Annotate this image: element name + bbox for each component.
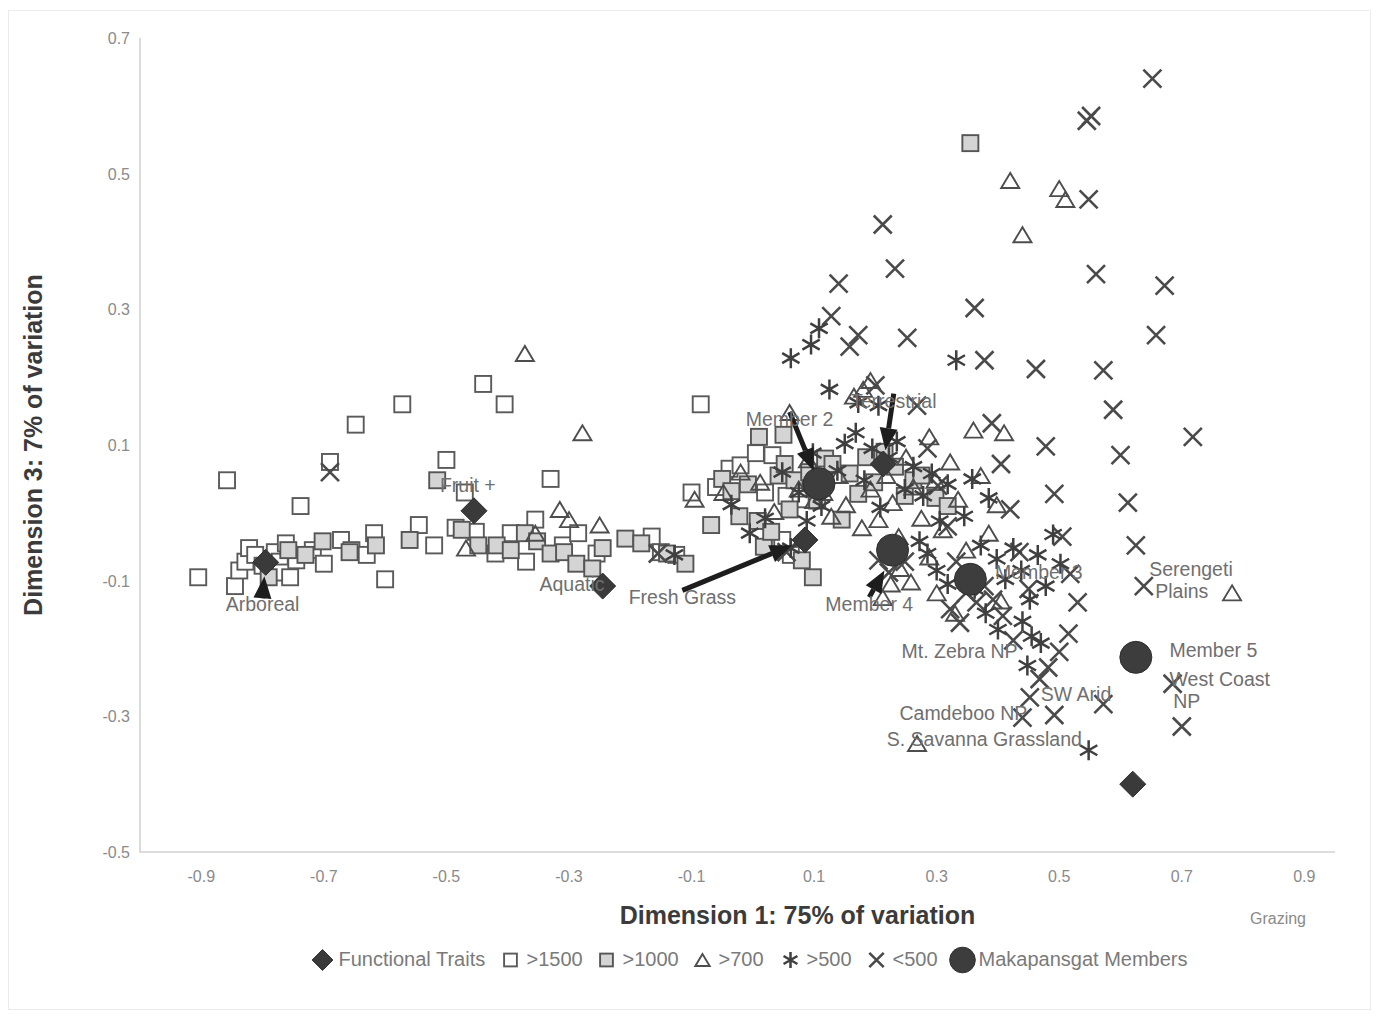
data-point [1094,361,1112,379]
data-point [956,506,973,526]
data-point [1014,611,1031,631]
x-tick-label: 0.9 [1293,868,1315,885]
data-point [1032,633,1049,653]
data-point [782,348,799,368]
data-point [1080,190,1098,208]
data-point [316,556,332,572]
y-tick-label: 0.5 [108,166,130,183]
data-point [1037,437,1055,455]
data-point [834,512,850,528]
x-tick-label: -0.1 [678,868,706,885]
data-point [966,299,984,317]
data-point [830,275,848,293]
data-point [805,569,821,585]
legend-label: >700 [719,948,764,970]
x-tick-label: 0.3 [926,868,948,885]
y-tick-label: -0.5 [102,844,130,861]
y-axis-tick-labels: 0.70.50.30.1-0.1-0.3-0.5 [102,30,130,861]
data-point [912,511,930,526]
data-point [411,517,427,533]
data-point [1120,641,1152,673]
legend-item-1[interactable]: >1500 [504,948,583,970]
data-point [1080,740,1097,760]
legend-label: Functional Traits [339,948,486,970]
data-point [898,329,916,347]
data-point [280,542,296,558]
data-point [1045,485,1063,503]
data-point [1082,107,1100,125]
data-point [633,535,649,551]
y-tick-label: 0.1 [108,437,130,454]
y-axis-title: Dimension 3: 7% of variation [19,274,47,616]
annotation-arrow [682,554,771,591]
data-point [1001,173,1019,188]
data-point [918,439,936,457]
data-point [1104,401,1122,419]
data-point [1069,593,1087,611]
data-point [1059,625,1077,643]
data-point [475,376,491,392]
data-point [591,518,609,533]
data-point [757,484,773,500]
legend-item-5[interactable]: <500 [869,948,937,970]
data-point [1119,494,1137,512]
data-point [282,569,298,585]
legend-item-3[interactable]: >700 [695,948,763,970]
data-point [551,502,569,517]
annotation-labels-layer: ArborealFruit +AquaticFresh GrassMember … [226,390,1271,750]
legend-marker-square-gray [600,954,613,967]
legend-item-0[interactable]: Functional Traits [312,948,485,970]
legend-item-4[interactable]: >500 [784,948,852,970]
y-tick-label: 0.3 [108,301,130,318]
legend-item-6[interactable]: Makapansgat Members [950,947,1188,973]
data-point [1112,446,1130,464]
data-point [939,574,956,594]
legend-item-2[interactable]: >1000 [600,948,679,970]
data-point [886,260,904,278]
legend-label: >500 [807,948,852,970]
data-point [877,534,909,566]
data-point [1027,360,1045,378]
data-point [438,452,454,468]
annotation-label: Fresh Grass [629,586,737,608]
data-point [568,556,584,572]
data-point [980,488,997,508]
legend-marker-triangle-open [695,954,709,966]
data-point [1056,192,1074,207]
y-tick-label: 0.7 [108,30,130,47]
data-point [595,540,611,556]
data-point [989,620,1006,640]
data-point [348,417,364,433]
data-point [1127,536,1145,554]
annotation-label: Arboreal [226,593,300,615]
data-point [297,547,313,563]
data-point [461,498,487,524]
data-point [962,135,978,151]
data-point [1050,643,1068,661]
annotation-label: Member 3 [995,561,1083,583]
y-tick-label: -0.1 [102,573,130,590]
data-point [368,537,384,553]
legend-label: Makapansgat Members [979,948,1188,970]
data-point [975,351,993,369]
data-point [822,307,840,325]
data-point [992,455,1010,473]
data-point [573,425,591,440]
legend-marker-asterisk [784,952,798,968]
annotation-label: SW Arid [1041,683,1111,705]
annotation-label: Serengeti [1149,558,1232,580]
data-point [1045,706,1063,724]
legend-marker-diamond-filled [312,950,333,971]
data-point [841,338,859,356]
x-axis-tick-labels: -0.9-0.7-0.5-0.3-0.10.10.30.50.70.9 [187,868,1315,885]
data-point [941,454,959,469]
annotation-label: Member 2 [746,408,834,430]
data-point [951,614,969,632]
x-tick-label: 0.7 [1171,868,1193,885]
legend-label: >1500 [527,948,583,970]
legend-marker-square-open [504,954,517,967]
grazing-note: Grazing [1250,910,1306,927]
data-point [293,498,309,514]
data-point [394,396,410,412]
plot-axes [140,38,1335,852]
